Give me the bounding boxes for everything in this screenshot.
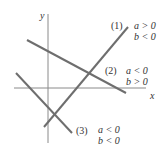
line-2-number: (2): [105, 65, 117, 77]
diagram: y x (1) a > 0 b < 0 (2) a < 0 b > 0 (3) …: [0, 0, 165, 157]
line-3-number: (3): [76, 125, 88, 137]
line-1-condition-b: b < 0: [134, 31, 156, 42]
line-1-condition-a: a > 0: [134, 20, 156, 31]
line-3-condition-b: b < 0: [98, 135, 120, 146]
y-axis-label: y: [39, 10, 45, 21]
line-3-condition-a: a < 0: [98, 124, 120, 135]
line-2-condition-a: a < 0: [126, 65, 148, 76]
line-1-number: (1): [111, 20, 123, 32]
line-2-condition-b: b > 0: [126, 76, 148, 87]
x-axis-label: x: [149, 90, 155, 101]
line-1: [44, 27, 128, 127]
